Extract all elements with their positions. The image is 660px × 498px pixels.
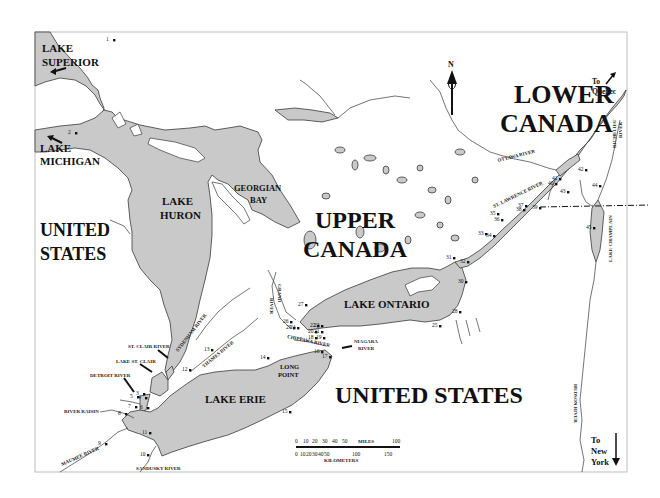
label-lake-superior-2: SUPERIOR [42,56,100,68]
site-marker [289,411,291,413]
label-united-states-west-1: UNITED [40,220,110,240]
site-number: 2 [68,129,71,135]
site-marker [453,257,455,259]
site-marker [267,357,269,359]
label-united-states-west-2: STATES [40,244,106,264]
site-marker [493,235,495,237]
label-lake-huron-1: LAKE [162,195,193,207]
site-marker [523,209,525,211]
scale-tick-label: 20 [306,451,312,457]
site-number: 38 [516,206,522,212]
site-number: 25 [432,322,438,328]
site-number: 32 [460,258,466,264]
site-number: 36 [494,216,500,222]
svg-text:To: To [592,77,600,86]
scale-tick-label: 30 [322,438,328,444]
scale-tick-label: 40 [332,438,338,444]
site-number: 10 [140,451,146,457]
scale-tick-label: 20 [312,438,318,444]
label-richelieu-river-2: RIVER [618,121,623,138]
scale-tick-label: 10 [300,451,306,457]
site-marker [439,325,441,327]
label-river-raisin: RIVER RAISIN [64,409,99,414]
scale-tick-label: 150 [384,451,393,457]
label-lake-huron-2: HURON [160,209,201,221]
label-lake-michigan-1: LAKE [40,142,71,154]
scale-tick-label: 10 [303,438,309,444]
label-richelieu-river-1: RICHELIEU [612,119,617,148]
lake-ontario [300,262,466,330]
site-marker [465,281,467,283]
site-number: 16 [314,348,320,354]
site-marker [567,191,569,193]
site-number: 15 [282,408,288,414]
label-united-states-south: UNITED STATES [335,382,523,408]
label-lake-michigan-2: MICHIGAN [40,155,100,167]
site-marker [323,337,325,339]
site-marker [467,261,469,263]
site-number: 39 [532,204,538,210]
site-marker [539,207,541,209]
scale-tick-label: 100 [352,451,361,457]
north-label: N [448,60,454,69]
site-number: 23 [314,322,320,328]
site-marker [113,39,115,41]
label-lake-superior-1: LAKE [42,42,73,54]
svg-text:To: To [591,435,600,445]
scale-bar: 0 10 20 30 40 50 MILES 100 0 10 20 30 40… [295,438,401,463]
site-marker [75,132,77,134]
site-marker [525,205,527,207]
site-marker [585,169,587,171]
ottawa-river-mouth [556,154,580,176]
label-niagara-river-2: RIVER [358,346,375,351]
site-marker [189,369,191,371]
site-number: 19 [316,334,322,340]
label-maumee-river: MAUMEE RIVER [60,446,100,467]
site-marker [145,397,147,399]
site-marker [329,356,331,358]
site-number: 17 [322,353,328,359]
site-number: 7 [128,403,131,409]
site-number: 34 [486,232,492,238]
site-number: 12 [182,366,188,372]
site-marker [559,178,561,180]
site-marker [305,304,307,306]
label-lower-canada-2: CANADA [500,109,613,138]
label-hudson-river: HUDSON RIVER [573,384,578,423]
scale-miles-label: MILES [358,439,374,444]
label-st-clair-river: ST. CLAIR RIVER [128,344,170,349]
site-number: 13 [204,346,210,352]
site-number: 45 [586,224,592,230]
site-marker [593,227,595,229]
label-georgian-bay-1: GEORGIAN [234,183,282,193]
scale-tick-label: 50 [324,451,330,457]
lake-nipissing [275,108,338,122]
lake-st-clair [150,372,168,396]
label-grand-river-1: GRAND [277,284,282,303]
site-number: 41 [552,175,558,181]
site-marker [321,331,323,333]
site-number: 1 [106,36,109,42]
site-marker [149,432,151,434]
label-upper-canada-1: UPPER [315,207,396,233]
label-lake-ontario: LAKE ONTARIO [344,298,430,310]
site-marker [599,185,601,187]
site-marker [125,413,127,415]
scale-tick-label: 0 [295,438,298,444]
site-number: 14 [260,354,266,360]
site-marker [147,454,149,456]
site-number: 27 [298,301,304,307]
scale-tick-label: 100 [392,438,401,444]
site-number: 18 [308,334,314,340]
site-marker [137,396,139,398]
site-marker [211,349,213,351]
site-marker [105,443,107,445]
svg-text:New: New [591,446,608,456]
label-lake-champlain: LAKE CHAMPLAIN [608,215,613,262]
site-number: 30 [458,278,464,284]
site-number: 33 [478,230,484,236]
scale-tick-label: 50 [342,438,348,444]
label-thames-river: THAMES RIVER [201,340,234,369]
site-number: 28 [452,308,458,314]
site-number: 5 [130,393,133,399]
